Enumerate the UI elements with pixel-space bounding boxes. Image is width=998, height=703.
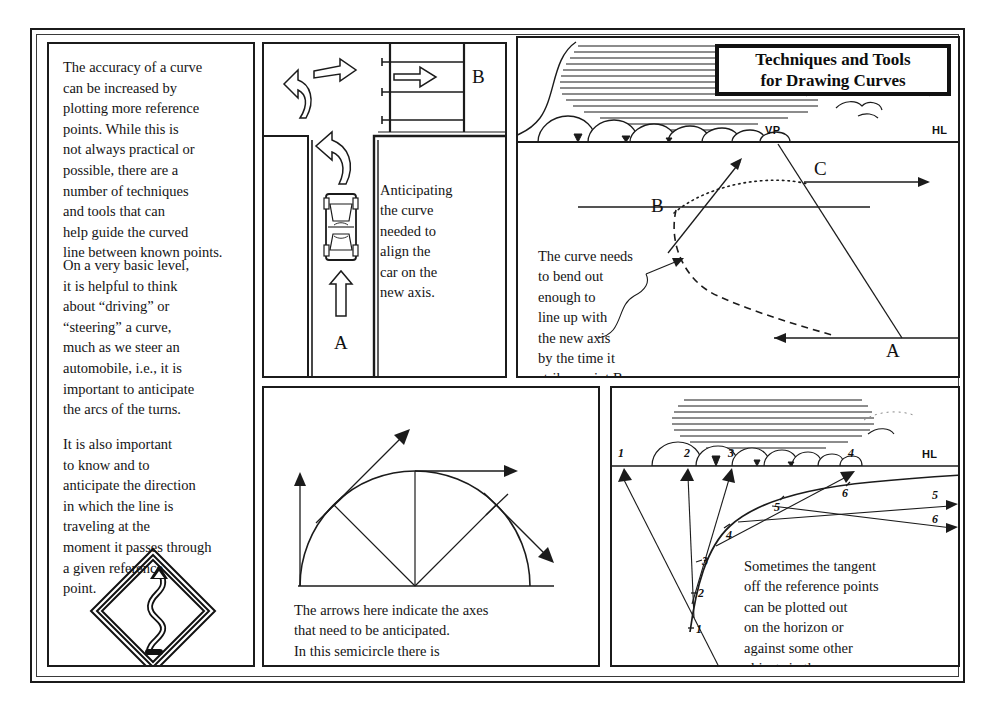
caption-anticipating-the-curve: Anticipating the curve needed to align t… — [380, 180, 498, 302]
caption-curve-bend-out: The curve needs to bend out enough to li… — [538, 246, 658, 378]
label-point-a-car: A — [334, 332, 348, 354]
curve-point-6: 6 — [842, 486, 848, 501]
curve-point-1: 1 — [696, 622, 702, 637]
panel-tangent-to-horizon: 1 2 3 4 HL 5 6 1 2 3 4 5 6 Sometimes the… — [610, 386, 960, 667]
panel-perspective-curve: VP HL B C A The curve needs to bend out … — [516, 36, 960, 378]
panel-explanatory-text: The accuracy of a curve can be increased… — [47, 42, 255, 667]
edge-mark-5: 5 — [932, 488, 938, 503]
caption-tangent-off-reference-points: Sometimes the tangent off the reference … — [744, 556, 929, 667]
label-point-c-perspective: C — [814, 158, 827, 180]
label-horizon-line-bottom: HL — [922, 448, 937, 460]
curve-point-4: 4 — [726, 528, 732, 543]
curve-point-2: 2 — [698, 586, 704, 601]
horizon-mark-4: 4 — [848, 446, 854, 461]
caption-arrows-indicate-axes: The arrows here indicate the axes that n… — [294, 600, 584, 667]
horizon-mark-2: 2 — [684, 446, 690, 461]
label-point-a-perspective: A — [886, 340, 900, 362]
title-plate: Techniques and Tools for Drawing Curves — [715, 44, 951, 96]
label-vanishing-point: VP — [765, 124, 780, 136]
horizon-mark-1: 1 — [618, 446, 624, 461]
horizon-mark-3: 3 — [728, 446, 734, 461]
curve-point-5: 5 — [774, 500, 780, 515]
page-title: Techniques and Tools for Drawing Curves — [755, 49, 910, 91]
edge-mark-6: 6 — [932, 512, 938, 527]
label-point-b-car: B — [472, 66, 485, 88]
page-canvas: The accuracy of a curve can be increased… — [0, 0, 998, 703]
curve-point-3: 3 — [702, 554, 708, 569]
label-horizon-line-top: HL — [932, 124, 947, 136]
label-point-b-perspective: B — [651, 195, 664, 217]
panel-car-turn-plan: A B Anticipating the curve needed to ali… — [262, 42, 507, 378]
panel-semicircle-axes: The arrows here indicate the axes that n… — [262, 386, 600, 667]
winding-road-sign-icon — [49, 44, 255, 667]
